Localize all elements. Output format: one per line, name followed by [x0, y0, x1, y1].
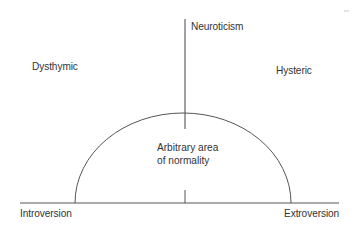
dysthymic-label: Dysthymic [32, 60, 78, 72]
normality-label-line1: Arbitrary area [157, 142, 218, 153]
neuroticism-label: Neuroticism [191, 20, 243, 32]
personality-diagram: Neuroticism Dysthymic Hysteric Arbitrary… [0, 0, 361, 233]
diagram-graphics [0, 0, 361, 233]
normality-label-line2: of normality [157, 155, 209, 166]
scan-artifact [344, 10, 349, 12]
extroversion-label: Extroversion [284, 207, 339, 219]
introversion-label: Introversion [20, 207, 72, 219]
hysteric-label: Hysteric [276, 64, 312, 76]
